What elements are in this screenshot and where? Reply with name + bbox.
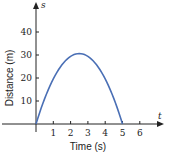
x-tick-label: 2 xyxy=(68,128,74,138)
x-tick-label: 3 xyxy=(85,128,91,138)
y-tick-label: 30 xyxy=(21,50,33,60)
y-axis-arrow-icon xyxy=(33,2,39,9)
x-axis-arrow-icon xyxy=(157,121,164,127)
y-tick-label: 10 xyxy=(21,96,33,106)
x-tick-label: 5 xyxy=(120,128,126,138)
y-axis-variable: s xyxy=(41,0,46,10)
x-tick-label: 6 xyxy=(137,128,143,138)
x-tick-label: 1 xyxy=(50,128,56,138)
ticks: 12345610203040 xyxy=(21,27,143,138)
x-axis-variable: t xyxy=(158,111,162,121)
data-line xyxy=(36,54,123,124)
y-tick-label: 20 xyxy=(21,73,33,83)
chart: s t 12345610203040 Time (s) Distance (m) xyxy=(0,0,169,158)
x-tick-label: 4 xyxy=(102,128,108,138)
y-axis-label: Distance (m) xyxy=(4,50,15,107)
y-tick-label: 40 xyxy=(21,27,33,37)
x-axis-label: Time (s) xyxy=(70,141,106,152)
